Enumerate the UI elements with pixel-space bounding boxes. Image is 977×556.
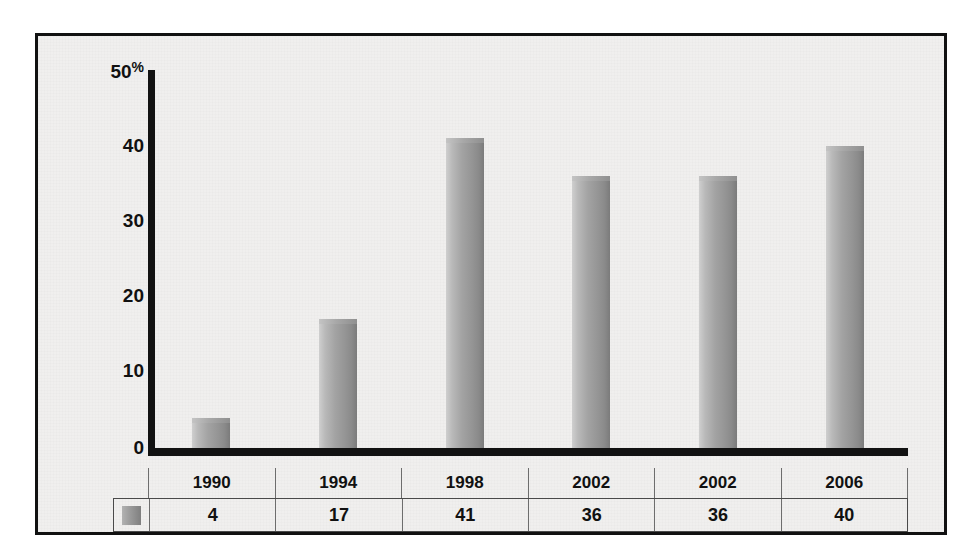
bar-top-highlight xyxy=(319,319,357,324)
table-header-cell-3: 2002 xyxy=(528,468,655,498)
chart-frame: 50% 40 30 20 10 0 1990199419982002200220… xyxy=(35,33,947,535)
table-values-container: 41741363640 xyxy=(150,499,907,531)
bar-1994-1 xyxy=(319,319,357,448)
chart-figure: 50% 40 30 20 10 0 1990199419982002200220… xyxy=(0,0,977,556)
y-tick-40: 40 xyxy=(123,136,144,155)
bar-2002-4 xyxy=(699,176,737,448)
table-header-cell-1: 1994 xyxy=(275,468,402,498)
table-header-cell-4: 2002 xyxy=(654,468,781,498)
table-header-row: 199019941998200220022006 xyxy=(148,468,908,498)
bar-1998-2 xyxy=(446,138,484,448)
legend-swatch-cell xyxy=(114,499,150,531)
table-header-cell-5: 2006 xyxy=(781,468,909,498)
bar-top-highlight xyxy=(826,146,864,151)
y-tick-10: 10 xyxy=(123,361,144,380)
table-value-cell-1: 17 xyxy=(276,499,402,531)
table-header-cell-0: 1990 xyxy=(148,468,275,498)
bar-top-highlight xyxy=(572,176,610,181)
y-tick-30: 30 xyxy=(123,211,144,230)
bar-2002-3 xyxy=(572,176,610,448)
bar-series xyxy=(155,70,908,448)
bar-2006-5 xyxy=(826,146,864,448)
table-value-cell-3: 36 xyxy=(529,499,655,531)
y-axis-line xyxy=(148,70,155,454)
data-table: 199019941998200220022006 41741363640 xyxy=(113,468,908,526)
bar-top-highlight xyxy=(192,418,230,423)
plot-area: 50% 40 30 20 10 0 xyxy=(148,70,908,462)
y-axis-labels: 50% 40 30 20 10 0 xyxy=(96,70,144,454)
table-value-cell-5: 40 xyxy=(782,499,907,531)
y-tick-50: 50% xyxy=(110,62,144,81)
table-value-cell-4: 36 xyxy=(655,499,781,531)
series-color-swatch-icon xyxy=(122,506,141,525)
bar-top-highlight xyxy=(446,138,484,143)
bar-top-highlight xyxy=(699,176,737,181)
y-tick-0: 0 xyxy=(133,438,144,457)
y-tick-20: 20 xyxy=(123,286,144,305)
table-value-row: 41741363640 xyxy=(113,498,908,532)
table-value-cell-0: 4 xyxy=(150,499,276,531)
table-value-cell-2: 41 xyxy=(403,499,529,531)
bar-1990-0 xyxy=(192,418,230,448)
table-header-cell-2: 1998 xyxy=(401,468,528,498)
percent-symbol: % xyxy=(132,59,144,75)
x-axis-line xyxy=(148,448,908,456)
